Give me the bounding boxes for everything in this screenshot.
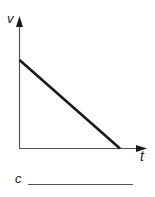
velocity-line	[20, 60, 121, 149]
part-label: c	[15, 172, 22, 185]
x-axis-label: t	[140, 149, 144, 163]
y-axis-arrow-icon	[16, 16, 23, 27]
y-axis-label: v	[7, 12, 14, 25]
answer-blank-line[interactable]	[28, 184, 133, 185]
velocity-time-graph	[0, 0, 155, 197]
